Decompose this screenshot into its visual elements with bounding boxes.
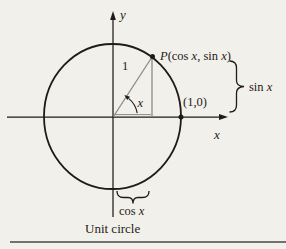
sin-brace [230, 61, 245, 112]
cos-arg: x [138, 204, 145, 218]
point-p-label: P(cos x, sin x) [159, 49, 231, 63]
intercept-label: (1,0) [183, 95, 207, 109]
figure-caption: Unit circle [85, 221, 140, 236]
point-p-separator: , sin [197, 49, 221, 63]
point-p-dot [150, 54, 155, 59]
x-axis-arrowhead [219, 114, 228, 120]
point-1-0-dot [179, 115, 184, 120]
radius-line [114, 57, 153, 117]
angle-label: x [137, 96, 144, 110]
point-p-name: P [159, 49, 168, 63]
sin-label: sin x [249, 80, 273, 94]
x-axis-label: x [213, 127, 220, 142]
sin-fn: sin [249, 80, 267, 94]
cos-fn: cos [119, 204, 139, 218]
angle-arc [129, 98, 138, 113]
cos-label: cos x [119, 204, 145, 218]
y-axis-label: y [118, 7, 126, 22]
cos-brace [117, 191, 149, 204]
point-p-open: (cos [168, 49, 192, 63]
figure-canvas: y x P(cos x, sin x) (1,0) 1 x sin x cos … [0, 0, 286, 249]
radius-length-label: 1 [122, 59, 128, 73]
sin-arg: x [266, 80, 273, 94]
point-p-close: ) [227, 49, 231, 63]
unit-circle-figure: y x P(cos x, sin x) (1,0) 1 x sin x cos … [0, 0, 286, 249]
y-axis-arrowhead [110, 11, 116, 20]
